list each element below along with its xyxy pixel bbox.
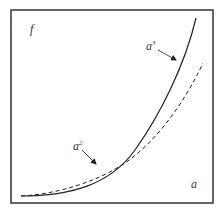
chart: f a a3 a2 — [0, 0, 223, 211]
arrow-a2 — [82, 150, 96, 164]
label-a2-exponent: 2 — [79, 139, 83, 147]
arrow-a3 — [158, 50, 176, 60]
series-a2-dashed-curve — [21, 63, 203, 196]
y-axis-label: f — [30, 22, 35, 36]
label-a3: a3 — [146, 39, 156, 53]
x-axis-label: a — [191, 177, 197, 191]
plot-frame — [11, 10, 213, 203]
label-a3-exponent: 3 — [151, 39, 156, 47]
series-a3-solid-curve — [21, 18, 196, 196]
label-a2: a2 — [73, 139, 83, 153]
